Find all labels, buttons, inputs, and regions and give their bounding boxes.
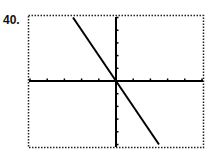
graph — [0, 0, 206, 155]
